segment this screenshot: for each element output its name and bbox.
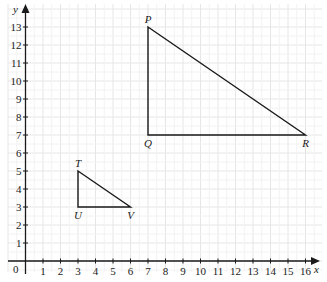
vertex-label-p: P [144,13,152,25]
grid-lines [8,4,322,272]
y-tick-label: 1 [16,237,22,249]
y-tick-label: 11 [11,57,22,69]
y-tick-label: 10 [11,75,23,87]
y-tick-label: 4 [16,183,22,195]
y-tick-label: 9 [16,93,22,105]
y-tick-label: 6 [16,147,22,159]
x-tick-label: 2 [58,265,64,277]
y-tick-label: 3 [16,201,22,213]
x-tick-label: 10 [195,265,207,277]
x-tick-label: 1 [40,265,46,277]
vertex-label-q: Q [144,137,152,149]
y-tick-label: 7 [16,129,22,141]
y-tick-label: 5 [16,165,22,177]
y-tick-label: 12 [11,39,22,51]
x-tick-label: 8 [163,265,169,277]
x-tick-label: 7 [145,265,151,277]
x-tick-label: 14 [265,265,277,277]
vertex-label-u: U [74,209,83,221]
x-tick-label: 12 [230,265,241,277]
y-tick-label: 2 [16,219,22,231]
y-tick-label: 8 [16,111,22,123]
vertex-label-r: R [301,137,309,149]
x-tick-label: 11 [213,265,224,277]
origin-label: 0 [13,263,19,275]
x-tick-label: 15 [283,265,295,277]
axis-ticks: 1234567891011121314151612345678910111213… [11,3,320,277]
x-axis-label: x [313,263,319,275]
x-tick-label: 13 [248,265,260,277]
y-axis-label: y [12,3,18,15]
x-tick-label: 9 [180,265,186,277]
x-tick-label: 16 [300,265,312,277]
vertex-label-v: V [127,209,135,221]
x-tick-label: 3 [75,265,81,277]
y-tick-label: 13 [11,21,23,33]
x-tick-label: 5 [110,265,116,277]
vertex-label-t: T [75,157,82,169]
x-tick-label: 6 [128,265,134,277]
coordinate-grid-diagram: 1234567891011121314151612345678910111213… [0,0,327,282]
x-tick-label: 4 [93,265,99,277]
